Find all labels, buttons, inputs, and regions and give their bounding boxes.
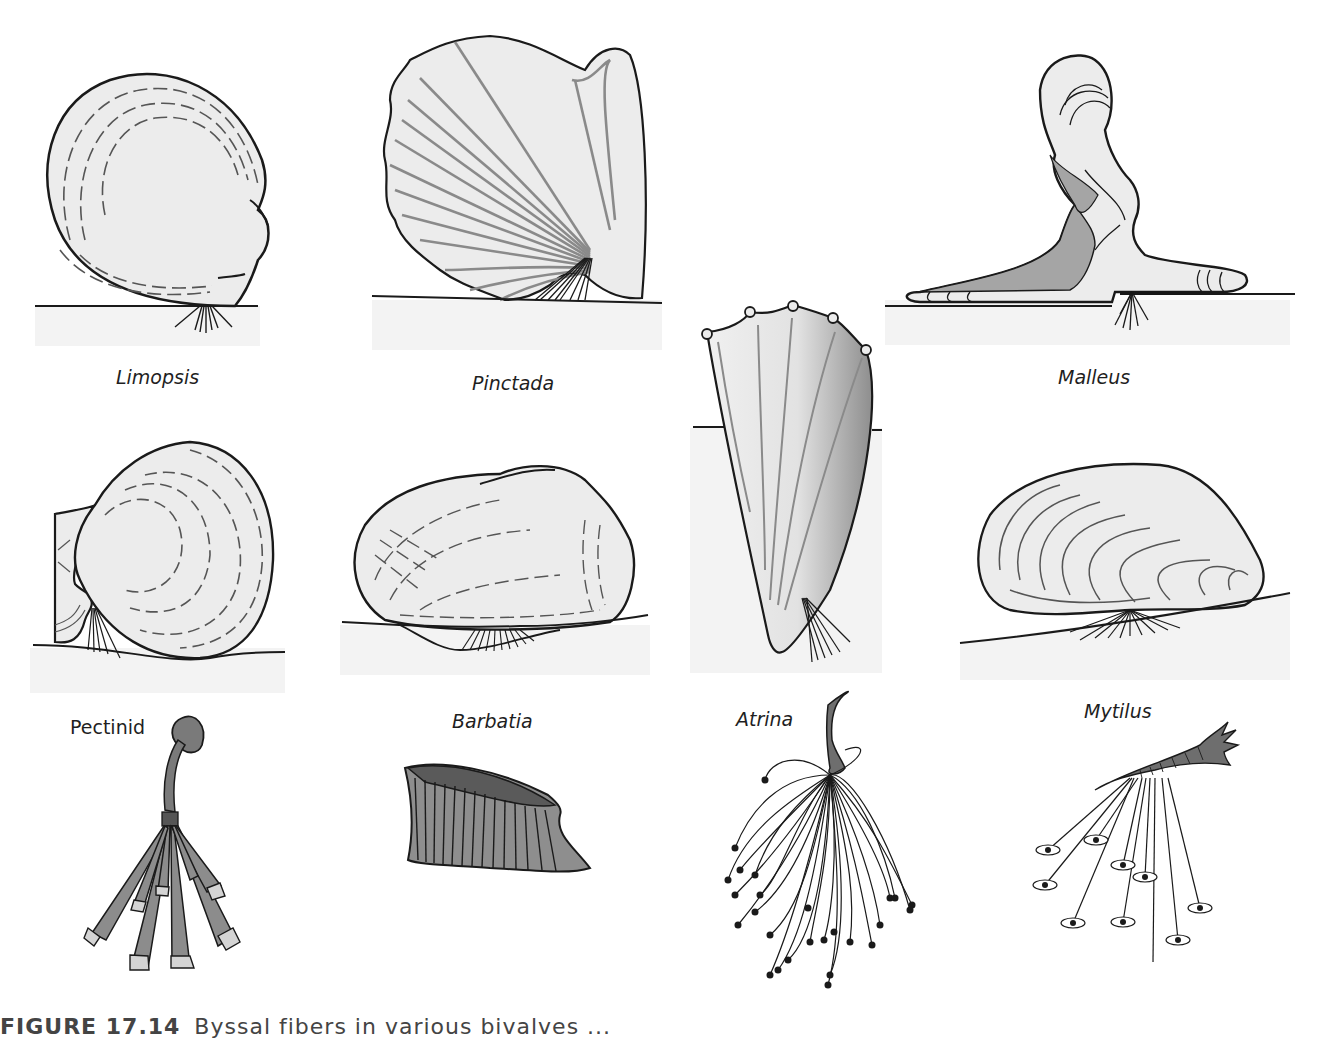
pinctada-shell-icon [360,0,690,400]
mytilus-byssus-icon [1010,690,1250,970]
pectinid-shell-illustration [30,420,330,700]
pectinid-byssus-illustration: Pectinid [50,700,290,990]
barbatia-label: Barbatia [452,710,533,732]
figure-caption-number: FIGURE 17.14 [0,1014,180,1039]
limopsis-shell-icon [0,0,320,400]
figure-caption-text: Byssal fibers in various bivalves ... [194,1014,611,1039]
pinctada-label: Pinctada [472,372,554,394]
limopsis-illustration: Limopsis [0,0,320,400]
limopsis-label: Limopsis [116,366,199,388]
malleus-label: Malleus [1058,366,1130,388]
barbatia-shell-illustration [330,430,690,690]
mytilus-byssus-illustration: Mytilus [1010,690,1250,970]
barbatia-byssus-illustration: Barbatia [380,700,600,900]
mytilus-shell-illustration [950,440,1300,690]
atrina-shell-icon [690,290,890,680]
atrina-byssus-illustration: Atrina [700,680,960,990]
pectinid-byssus-icon [50,700,290,990]
figure-caption: FIGURE 17.14Byssal fibers in various biv… [0,1014,611,1039]
atrina-shell-illustration [690,290,890,680]
barbatia-shell-icon [330,430,690,690]
malleus-shell-icon [880,30,1300,400]
atrina-label: Atrina [736,708,793,730]
mytilus-label: Mytilus [1084,700,1152,722]
pectinid-shell-icon [30,420,330,700]
pinctada-illustration: Pinctada [360,0,690,400]
malleus-illustration: Malleus [880,30,1300,400]
pectinid-label: Pectinid [70,716,145,738]
mytilus-shell-icon [950,440,1300,690]
